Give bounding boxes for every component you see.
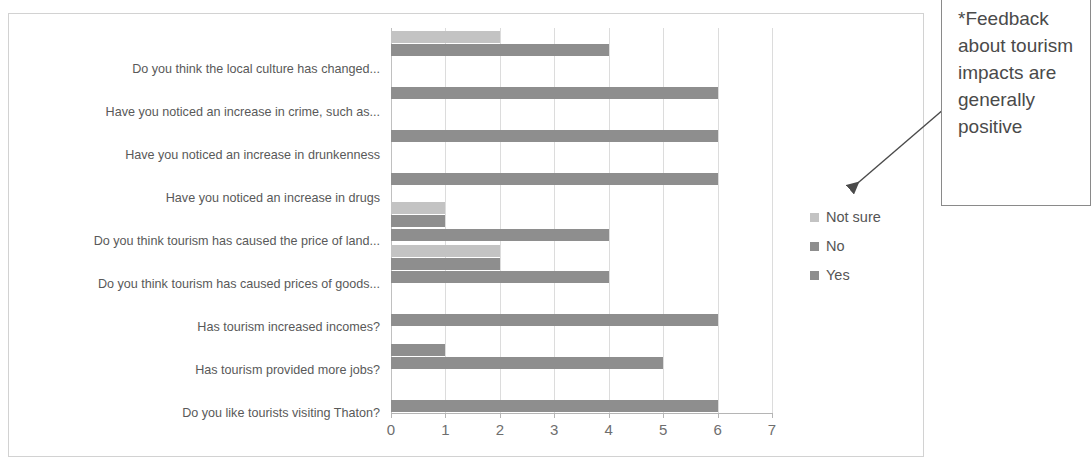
legend-swatch-icon [810, 271, 819, 280]
category-label: Have you noticed an increase in drugs [20, 192, 380, 205]
x-axis-tick-label: 5 [648, 422, 678, 437]
bar [391, 31, 500, 43]
x-axis-tick [500, 413, 501, 418]
bar [391, 357, 663, 369]
x-axis-tick-label: 3 [539, 422, 569, 437]
gridline [772, 28, 773, 413]
x-axis-tick [554, 413, 555, 418]
x-axis-tick [663, 413, 664, 418]
legend-swatch-icon [810, 213, 819, 222]
x-axis-tick-label: 0 [376, 422, 406, 437]
x-axis-tick-label: 2 [485, 422, 515, 437]
legend-label: Not sure [826, 210, 881, 225]
bar [391, 245, 500, 257]
category-label: Have you noticed an increase in crime, s… [20, 106, 380, 119]
x-axis-tick-label: 1 [430, 422, 460, 437]
legend-swatch-icon [810, 242, 819, 251]
legend-item-yes[interactable]: Yes [810, 261, 920, 290]
x-axis-tick-label: 7 [757, 422, 787, 437]
gridline [663, 28, 664, 413]
x-axis-tick [445, 413, 446, 418]
gridline [500, 28, 501, 413]
annotation-text: *Feedback about tourism impacts are gene… [958, 6, 1082, 141]
annotation-callout-box: *Feedback about tourism impacts are gene… [941, 0, 1091, 206]
x-axis-tick [609, 413, 610, 418]
x-axis-tick-label: 6 [703, 422, 733, 437]
x-axis-tick-label: 4 [594, 422, 624, 437]
bar [391, 202, 445, 214]
bar [391, 258, 500, 270]
category-label: Has tourism provided more jobs? [20, 364, 380, 377]
bar [391, 271, 609, 283]
category-label: Do you think tourism has caused the pric… [20, 235, 380, 248]
category-label: Have you noticed an increase in drunkenn… [20, 149, 380, 162]
gridline [554, 28, 555, 413]
category-label: Do you like tourists visiting Thaton? [20, 407, 380, 420]
legend-item-no[interactable]: No [810, 232, 920, 261]
plot-area [391, 28, 772, 413]
category-label: Do you think the local culture has chang… [20, 63, 380, 76]
bar [391, 130, 718, 142]
bar [391, 215, 445, 227]
category-axis-labels: Do you think the local culture has chang… [20, 28, 380, 413]
gridline [445, 28, 446, 413]
x-axis-tick [391, 413, 392, 418]
legend-item-notsure[interactable]: Not sure [810, 203, 920, 232]
bar [391, 400, 718, 412]
category-label: Do you think tourism has caused prices o… [20, 278, 380, 291]
bar [391, 87, 718, 99]
category-label: Has tourism increased incomes? [20, 321, 380, 334]
bar [391, 229, 609, 241]
chart-legend: Not sureNoYes [810, 203, 920, 290]
legend-label: No [826, 239, 845, 254]
gridline [609, 28, 610, 413]
bar [391, 314, 718, 326]
legend-label: Yes [826, 268, 850, 283]
bar [391, 173, 718, 185]
x-axis-tick [772, 413, 773, 418]
gridline [718, 28, 719, 413]
x-axis-line [391, 413, 773, 414]
x-axis-tick [718, 413, 719, 418]
bar [391, 344, 445, 356]
bar [391, 44, 609, 56]
